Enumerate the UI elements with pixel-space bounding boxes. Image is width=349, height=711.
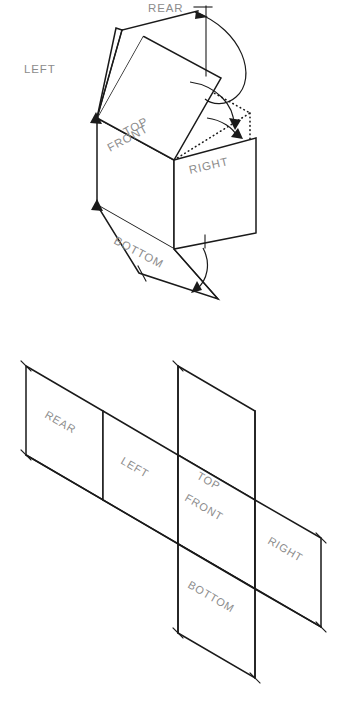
unfolded-panels-group (26, 366, 321, 678)
label-left-pictorial: LEFT (24, 63, 56, 75)
rear-panel-fill (26, 366, 103, 500)
lower-diagram: REAR LEFT TOP FRONT RIGHT BOTTOM (0, 355, 349, 711)
figure-page: REAR LEFT TOP FRONT RIGHT BOTTOM (0, 0, 349, 711)
upper-diagram: REAR LEFT TOP FRONT RIGHT BOTTOM (0, 0, 349, 340)
cube-solid-edges (97, 11, 256, 299)
right-face-fill (174, 138, 256, 249)
label-rear-pictorial: REAR (148, 2, 184, 14)
left-panel-fill (103, 411, 178, 544)
